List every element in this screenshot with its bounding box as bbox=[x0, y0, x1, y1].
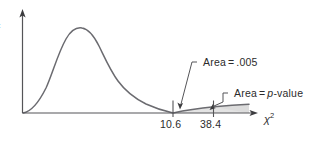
x-tick-label-10-6: 10.6 bbox=[160, 119, 181, 130]
leader-arrowhead-area-005 bbox=[177, 103, 183, 110]
annotation-area-p-value-suffix: -value bbox=[273, 87, 303, 99]
x-axis-label-exponent: 2 bbox=[270, 111, 274, 120]
leader-line-area-p-value bbox=[214, 93, 228, 106]
x-axis-label: χ2 bbox=[264, 112, 274, 125]
annotation-area-005: Area=.005 bbox=[203, 57, 258, 68]
annotation-area-p-value-equals: = bbox=[257, 87, 267, 99]
annotation-area-p-value-prefix: Area bbox=[234, 87, 257, 99]
chi-square-figure: = 10.6 38.4 χ2 Area=.005 Area=p-value bbox=[0, 0, 319, 143]
annotation-area-005-prefix: Area bbox=[203, 56, 226, 68]
density-curve bbox=[23, 28, 249, 113]
annotation-area-005-equals: = bbox=[226, 56, 236, 68]
x-tick-label-38-4: 38.4 bbox=[200, 119, 221, 130]
annotation-area-p-value: Area=p-value bbox=[234, 88, 303, 99]
leader-line-area-005 bbox=[181, 62, 197, 104]
annotation-area-005-value: .005 bbox=[236, 56, 257, 68]
